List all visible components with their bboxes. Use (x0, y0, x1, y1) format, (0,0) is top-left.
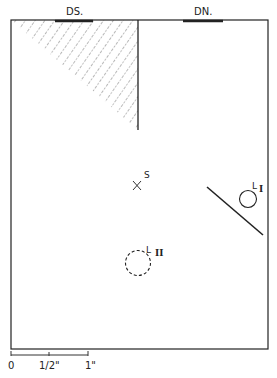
scale-bar (11, 351, 88, 356)
door-dn-label: DN. (194, 6, 212, 17)
scale-tick-zero: 0 (8, 360, 14, 371)
room-outline (11, 20, 268, 349)
source-x-icon (133, 181, 141, 190)
floor-plan-diagram: DS. DN. S L I L II 0 1/2" 1" (0, 0, 277, 378)
light-one-letter: L (252, 181, 257, 191)
light-two-numeral: II (155, 248, 163, 258)
light-one-numeral: I (259, 184, 263, 194)
light-one-circle (240, 191, 257, 208)
hatched-triangle-region (11, 20, 138, 130)
scale-tick-one: 1" (85, 360, 96, 371)
light-two-letter: L (146, 245, 151, 255)
source-label: S (144, 170, 150, 180)
door-ds-label: DS. (66, 6, 83, 17)
scale-tick-half: 1/2" (39, 360, 60, 371)
